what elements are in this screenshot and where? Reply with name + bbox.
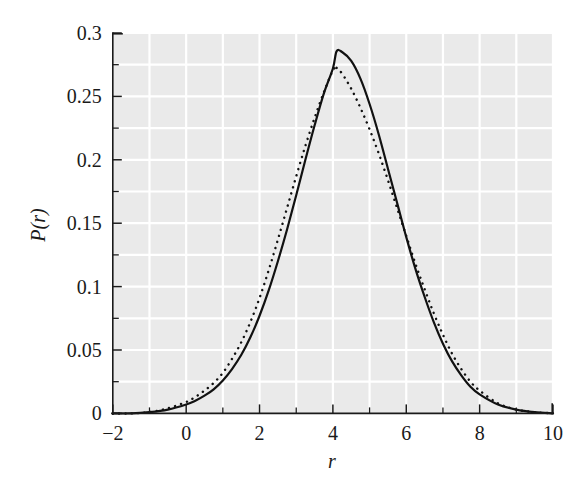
x-tick-label: −2 xyxy=(102,422,123,444)
x-axis-title: r xyxy=(328,450,336,472)
chart-canvas: −20246810 00.050.10.150.20.250.3 r P(r) xyxy=(0,0,585,488)
y-axis-title: P(r) xyxy=(27,208,50,243)
x-tick-label: 8 xyxy=(475,422,485,444)
figure-container: −20246810 00.050.10.150.20.250.3 r P(r) xyxy=(0,0,585,488)
x-tick-label: 10 xyxy=(543,422,563,444)
y-tick-label: 0.1 xyxy=(77,276,102,298)
x-tick-label: 6 xyxy=(401,422,411,444)
x-tick-label: 0 xyxy=(181,422,191,444)
x-axis-tick-labels: −20246810 xyxy=(102,422,563,444)
x-tick-label: 4 xyxy=(328,422,338,444)
y-axis-tick-labels: 00.050.10.150.20.250.3 xyxy=(67,22,102,424)
y-tick-label: 0.3 xyxy=(77,22,102,44)
y-tick-label: 0.2 xyxy=(77,149,102,171)
x-tick-label: 2 xyxy=(255,422,265,444)
y-tick-label: 0 xyxy=(92,402,102,424)
y-tick-label: 0.25 xyxy=(67,85,102,107)
y-tick-label: 0.15 xyxy=(67,212,102,234)
y-tick-label: 0.05 xyxy=(67,339,102,361)
